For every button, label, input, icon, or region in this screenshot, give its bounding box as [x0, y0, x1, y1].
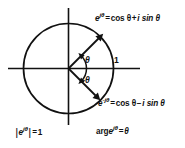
modulus-value: 1 [38, 128, 42, 137]
argument-prefix: arg [96, 127, 108, 136]
label-euler-positive: ejθ=cos θ+i sin θ [95, 15, 160, 23]
label-angle-negative-theta: −θ [80, 76, 90, 85]
argument-value: θ [124, 127, 128, 136]
euler-positive-cos-term: cos θ [111, 14, 131, 23]
euler-positive-sin-term: i sin θ [137, 14, 160, 23]
euler-negative-sin-term: i sin θ [142, 99, 165, 108]
label-euler-negative: e-jθ=cos θ−i sin θ [98, 100, 165, 108]
label-real-axis-tick-one: 1 [114, 56, 119, 65]
label-modulus: |ejθ|=1 [15, 127, 42, 139]
euler-unit-circle-figure: ejθ=cos θ+i sin θ e-jθ=cos θ−i sin θ |ej… [0, 0, 185, 148]
label-angle-positive-theta: θ [85, 56, 90, 65]
euler-negative-cos-term: cos θ [116, 99, 136, 108]
label-argument: argejθ=θ [96, 128, 129, 136]
